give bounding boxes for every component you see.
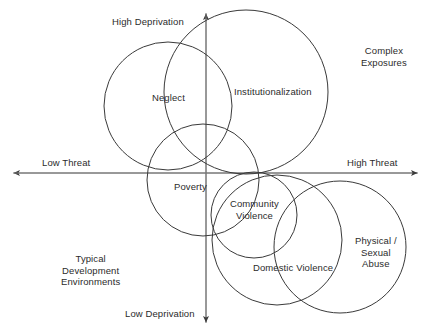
circle-label-neglect: Neglect [152, 92, 185, 104]
quadrant-label-typical-development-environments: TypicalDevelopmentEnvironments [61, 253, 120, 288]
circle-label-physical-sexual-abuse: Physical /SexualAbuse [355, 235, 397, 270]
circle-label-poverty: Poverty [174, 181, 207, 193]
circle-neglect [104, 42, 232, 170]
axis-label-high-threat: High Threat [347, 157, 398, 169]
circle-domestic-violence [212, 175, 342, 305]
axis-label-high-deprivation: High Deprivation [112, 16, 184, 28]
axis-label-low-threat: Low Threat [42, 157, 90, 169]
quadrant-label-complex-exposures: ComplexExposures [361, 45, 407, 68]
circle-label-institutionalization: Institutionalization [234, 86, 312, 98]
axis-label-low-deprivation: Low Deprivation [125, 308, 195, 320]
circle-label-domestic-violence: Domestic Violence [253, 262, 333, 274]
circle-label-community-violence: CommunityViolence [230, 198, 279, 221]
diagram-canvas: High Deprivation Low Deprivation Low Thr… [0, 0, 429, 333]
